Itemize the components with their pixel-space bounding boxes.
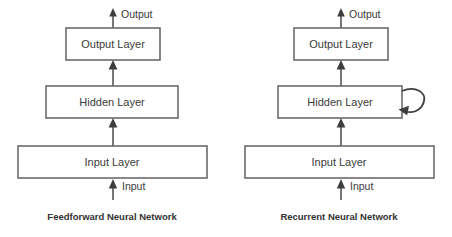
- feedforward-diagram: Output Output Layer Hidden Layer: [0, 0, 452, 237]
- recurrent-input-layer-label: Input Layer: [311, 156, 366, 168]
- recurrent-input-to-hidden-arrow: [337, 118, 346, 146]
- recurrent-output-arrow: [337, 8, 345, 28]
- feedforward-output-layer-box: Output Layer: [66, 28, 160, 60]
- feedforward-output-label: Output: [121, 8, 153, 20]
- feedforward-hidden-to-output-arrow: [109, 60, 118, 86]
- recurrent-output-label: Output: [349, 8, 381, 20]
- recurrent-panel: Output Output Layer Hidden Layer: [245, 8, 434, 222]
- recurrent-hidden-layer-box: Hidden Layer: [278, 86, 402, 118]
- feedforward-output-layer-label: Output Layer: [81, 38, 145, 50]
- feedforward-hidden-layer-label: Hidden Layer: [79, 96, 145, 108]
- feedforward-input-label: Input: [122, 180, 145, 192]
- recurrent-input-label: Input: [350, 180, 373, 192]
- recurrent-input-layer-box: Input Layer: [245, 146, 434, 178]
- recurrent-hidden-to-output-arrow: [337, 60, 346, 86]
- feedforward-input-layer-box: Input Layer: [18, 146, 207, 178]
- feedforward-output-arrow: [109, 8, 117, 28]
- recurrent-output-layer-label: Output Layer: [309, 38, 373, 50]
- recurrent-caption: Recurrent Neural Network: [280, 211, 398, 222]
- feedforward-input-layer-label: Input Layer: [84, 156, 139, 168]
- feedforward-hidden-layer-box: Hidden Layer: [46, 86, 178, 118]
- recurrent-output-layer-box: Output Layer: [294, 28, 388, 60]
- recurrent-hidden-layer-label: Hidden Layer: [307, 96, 373, 108]
- feedforward-input-to-hidden-arrow: [109, 118, 118, 146]
- feedforward-panel: Output Output Layer Hidden Layer: [18, 8, 207, 222]
- figure-canvas: Output Output Layer Hidden Layer: [0, 0, 452, 237]
- feedforward-input-arrow: [109, 179, 117, 200]
- recurrent-input-arrow: [337, 179, 345, 200]
- feedforward-caption: Feedforward Neural Network: [47, 211, 177, 222]
